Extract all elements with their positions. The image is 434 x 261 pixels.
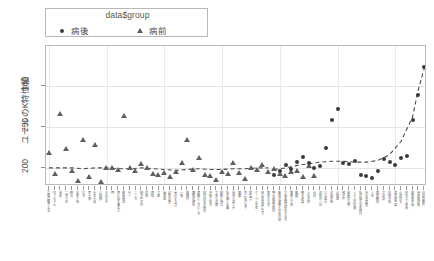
x-tick-label: 坊っちゃん xyxy=(52,191,55,206)
x-tick-label: 無題 xyxy=(295,191,298,197)
data-point-circle xyxy=(284,163,288,167)
data-point-circle xyxy=(272,173,276,177)
x-tick-label: 正岡子規 xyxy=(387,191,390,203)
x-tick-mark xyxy=(192,186,193,190)
data-point-circle xyxy=(405,154,409,158)
x-tick-label: 文学談 xyxy=(381,191,384,200)
chart-legend: data$group 病後 病前 xyxy=(45,8,208,37)
x-tick-mark xyxy=(354,186,355,190)
x-tick-mark xyxy=(365,186,366,190)
data-point-triangle xyxy=(190,167,196,172)
x-tick-label: 行人 xyxy=(127,191,130,197)
data-point-circle xyxy=(330,118,334,122)
x-tick-mark xyxy=(331,186,332,190)
data-point-triangle xyxy=(63,146,69,151)
x-tick-label: 永日小品 xyxy=(93,191,96,203)
x-tick-mark xyxy=(94,186,95,190)
x-tick-label: 吾輩は猫である xyxy=(46,191,49,212)
data-point-triangle xyxy=(311,173,317,178)
data-point-circle xyxy=(359,173,363,177)
x-tick-label: 硝子戸の中 xyxy=(139,191,142,206)
data-point-triangle xyxy=(254,167,260,172)
x-tick-label: 二百十日 xyxy=(64,191,67,203)
x-tick-mark xyxy=(158,186,159,190)
x-tick-label: 元日 xyxy=(312,191,315,197)
x-tick-mark xyxy=(262,186,263,190)
x-tick-mark xyxy=(267,186,268,190)
x-tick-mark xyxy=(377,186,378,190)
data-point-triangle xyxy=(92,142,98,147)
x-tick-mark xyxy=(106,186,107,190)
data-point-circle xyxy=(382,157,386,161)
data-point-triangle xyxy=(75,178,81,183)
data-point-triangle xyxy=(300,174,306,179)
x-tick-label: 文芸と道徳 xyxy=(214,191,217,206)
data-point-circle xyxy=(399,156,403,160)
x-tick-mark xyxy=(394,186,395,190)
x-tick-label: イズムの功過 xyxy=(352,191,355,209)
x-tick-mark xyxy=(59,186,60,190)
x-tick-label: 夢十夜 xyxy=(87,191,90,200)
x-tick-label: 現代日本の開化 xyxy=(202,191,205,212)
x-tick-label: 中学改良策 xyxy=(364,191,367,206)
x-tick-mark xyxy=(71,186,72,190)
x-tick-label: 満韓ところどころ xyxy=(196,191,199,215)
x-tick-mark xyxy=(319,186,320,190)
x-tick-mark xyxy=(140,186,141,190)
data-point-circle xyxy=(364,174,368,178)
x-tick-label: 幻影の盾 xyxy=(168,191,171,203)
x-tick-label: 虞美人草 xyxy=(75,191,78,203)
data-point-circle xyxy=(422,65,426,69)
x-tick-label: 日記及断片 xyxy=(422,191,425,206)
data-point-circle xyxy=(312,166,316,170)
x-tick-mark xyxy=(412,186,413,190)
x-tick-label: 車屋の小僧 xyxy=(347,191,350,206)
data-point-triangle xyxy=(173,169,179,174)
x-tick-mark xyxy=(238,186,239,190)
triangle-marker-icon xyxy=(134,26,145,35)
x-tick-label: 点頭録 xyxy=(335,191,338,200)
data-point-circle xyxy=(301,155,305,159)
x-tick-label: 薤露行 xyxy=(185,191,188,200)
x-tick-label: 倫敦塔 xyxy=(162,191,165,200)
data-point-triangle xyxy=(52,171,58,176)
data-point-circle xyxy=(370,176,374,180)
x-tick-label: 博士問題の成行 xyxy=(271,191,274,212)
x-tick-mark xyxy=(360,186,361,190)
x-tick-mark xyxy=(77,186,78,190)
data-point-triangle xyxy=(57,111,63,116)
x-tick-mark xyxy=(83,186,84,190)
x-tick-label: 三四郎 xyxy=(98,191,101,200)
x-tick-mark xyxy=(290,186,291,190)
x-tick-mark xyxy=(204,186,205,190)
data-point-circle xyxy=(388,160,392,164)
data-point-circle xyxy=(295,160,299,164)
x-tick-label: 落第 xyxy=(237,191,240,197)
x-tick-label: 思い出す事など xyxy=(116,191,119,212)
x-tick-mark xyxy=(198,186,199,190)
x-tick-mark xyxy=(406,186,407,190)
legend-label-after: 病後 xyxy=(71,24,89,36)
x-tick-mark xyxy=(417,186,418,190)
x-tick-mark xyxy=(221,186,222,190)
x-tick-label: 寺田寅彦宛 xyxy=(416,191,419,206)
x-tick-mark xyxy=(250,186,251,190)
legend-entry-before: 病前 xyxy=(134,24,167,36)
data-point-circle xyxy=(278,169,282,173)
x-tick-mark xyxy=(308,186,309,190)
x-tick-mark xyxy=(186,186,187,190)
x-tick-label: こころ xyxy=(133,191,136,200)
legend-label-before: 病前 xyxy=(149,24,167,36)
data-point-triangle xyxy=(225,171,231,176)
plot-panel xyxy=(45,45,426,185)
x-tick-mark xyxy=(285,186,286,190)
data-point-triangle xyxy=(132,168,138,173)
x-tick-mark xyxy=(146,186,147,190)
x-tick-label: 彼岸過迄 xyxy=(121,191,124,203)
x-tick-mark xyxy=(389,186,390,190)
x-tick-label: 文芸委員は何をするか xyxy=(283,191,286,221)
x-tick-mark xyxy=(227,186,228,190)
data-point-circle xyxy=(376,169,380,173)
x-tick-mark xyxy=(123,186,124,190)
x-tick-mark xyxy=(100,186,101,190)
